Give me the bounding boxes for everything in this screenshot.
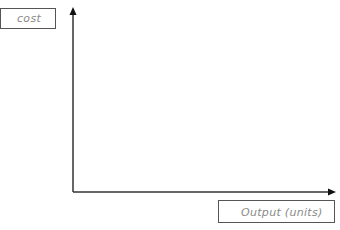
y-axis-arrow-icon [70, 7, 77, 15]
axes [0, 0, 340, 230]
x-axis-arrow-icon [328, 189, 336, 196]
